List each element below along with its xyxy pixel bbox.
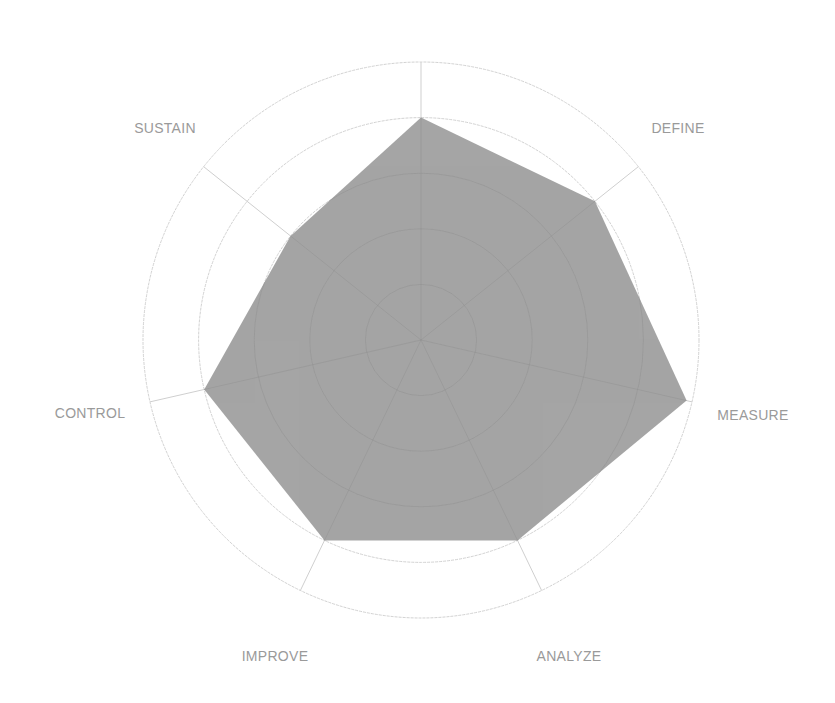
axis-label-analyze: ANALYZE: [537, 648, 602, 664]
axis-label-control: CONTROL: [55, 405, 126, 421]
radar-chart: [0, 0, 835, 703]
axis-label-measure: MEASURE: [717, 407, 788, 423]
axis-label-define: DEFINE: [651, 120, 704, 136]
axis-label-sustain: SUSTAIN: [134, 120, 196, 136]
data-area-polygon: [204, 118, 686, 541]
axis-label-improve: IMPROVE: [242, 648, 309, 664]
